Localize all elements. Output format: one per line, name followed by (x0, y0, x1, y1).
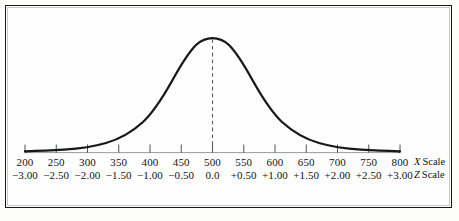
x-tick-label: 350 (110, 156, 127, 168)
figure-page: 200 250 300 350 400 450 500 550 600 650 … (0, 0, 459, 221)
z-scale-word: Scale (422, 169, 445, 180)
z-scale-symbol: Z (414, 169, 422, 180)
x-tick-label: 200 (17, 156, 34, 168)
z-tick-label: +2.50 (356, 169, 382, 181)
x-tick-label: 250 (48, 156, 65, 168)
z-tick-label: −2.50 (43, 169, 69, 181)
x-tick-label: 550 (235, 156, 252, 168)
z-scale-tick-labels: −3.00 −2.50 −2.00 −1.50 −1.00 −0.50 0.0 … (0, 169, 459, 183)
z-tick-label: +2.00 (325, 169, 351, 181)
x-tick-label: 300 (79, 156, 96, 168)
z-tick-label: 0.0 (205, 169, 219, 181)
z-tick-label: +1.00 (262, 169, 288, 181)
z-tick-label: +0.50 (231, 169, 257, 181)
normal-curve-plot (0, 0, 459, 221)
x-tick-label: 800 (392, 156, 409, 168)
x-tick-label: 600 (267, 156, 284, 168)
x-tick-label: 700 (329, 156, 346, 168)
z-tick-label: +3.00 (387, 169, 413, 181)
x-scale-axis-name: XScale (414, 156, 445, 167)
z-tick-label: −3.00 (12, 169, 38, 181)
z-tick-label: −0.50 (168, 169, 194, 181)
x-tick-label: 400 (142, 156, 159, 168)
x-scale-word: Scale (422, 156, 445, 167)
z-tick-label: −2.00 (75, 169, 101, 181)
z-tick-label: +1.50 (293, 169, 319, 181)
z-tick-label: −1.50 (106, 169, 132, 181)
x-tick-label: 450 (173, 156, 190, 168)
z-tick-label: −1.00 (137, 169, 163, 181)
x-tick-label: 650 (298, 156, 315, 168)
x-scale-tick-labels: 200 250 300 350 400 450 500 550 600 650 … (0, 156, 459, 170)
z-scale-axis-name: ZScale (414, 169, 445, 180)
x-tick-label: 500 (204, 156, 221, 168)
x-tick-label: 750 (360, 156, 377, 168)
